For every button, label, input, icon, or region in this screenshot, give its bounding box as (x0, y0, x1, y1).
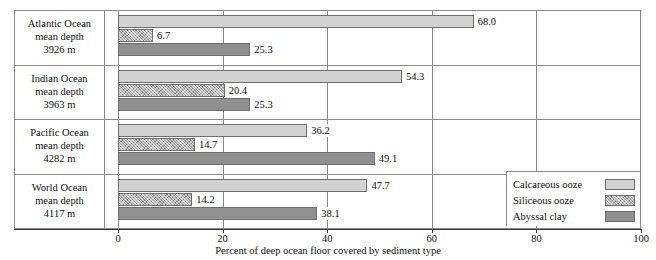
legend-swatch-siliceous-ooze (605, 195, 635, 206)
bar-atlantic-ocean-abyssal-clay (118, 43, 250, 56)
group-label-line: mean depth (15, 85, 104, 98)
bar-value-atlantic-ocean-siliceous-ooze: 6.7 (155, 29, 170, 42)
group-label-line: Pacific Ocean (15, 126, 104, 139)
group-label-line: 3926 m (15, 43, 104, 56)
group-label-pacific-ocean: Pacific Oceanmean depth4282 m (15, 126, 104, 165)
bar-value-pacific-ocean-siliceous-ooze: 14.7 (197, 138, 217, 151)
bar-indian-ocean-abyssal-clay (118, 98, 250, 111)
legend-item-calcareous-ooze[interactable]: Calcareous ooze (513, 177, 637, 192)
bar-pacific-ocean-calcareous-ooze (118, 124, 307, 137)
bar-indian-ocean-siliceous-ooze (118, 84, 225, 97)
legend: Calcareous oozeSiliceous oozeAbyssal cla… (506, 171, 640, 226)
group-label-world-ocean: World Oceanmean depth4117 m (15, 181, 104, 220)
bar-value-pacific-ocean-calcareous-ooze: 36.2 (309, 124, 329, 137)
legend-swatch-calcareous-ooze (605, 179, 635, 190)
bar-value-atlantic-ocean-abyssal-clay: 25.3 (252, 43, 272, 56)
legend-label: Calcareous ooze (513, 178, 582, 191)
group-label-line: mean depth (15, 30, 104, 43)
group-label-line: Atlantic Ocean (15, 17, 104, 30)
group-label-line: 4282 m (15, 152, 104, 165)
group-label-line: 4117 m (15, 207, 104, 220)
bar-value-atlantic-ocean-calcareous-ooze: 68.0 (476, 15, 496, 28)
bar-value-pacific-ocean-abyssal-clay: 49.1 (377, 152, 397, 165)
group-label-indian-ocean: Indian Oceanmean depth3963 m (15, 72, 104, 111)
group-label-line: mean depth (15, 194, 104, 207)
bar-atlantic-ocean-calcareous-ooze (118, 15, 474, 28)
bar-world-ocean-abyssal-clay (118, 207, 317, 220)
row-separator (14, 65, 641, 66)
row-separator (14, 119, 641, 120)
sediment-bar-chart: Atlantic Oceanmean depth3926 mIndian Oce… (0, 0, 656, 260)
bar-indian-ocean-calcareous-ooze (118, 70, 402, 83)
bar-value-world-ocean-abyssal-clay: 38.1 (319, 207, 339, 220)
group-label-line: mean depth (15, 139, 104, 152)
bar-pacific-ocean-abyssal-clay (118, 152, 375, 165)
bar-value-indian-ocean-calcareous-ooze: 54.3 (404, 70, 424, 83)
bar-pacific-ocean-siliceous-ooze (118, 138, 195, 151)
bar-value-indian-ocean-abyssal-clay: 25.3 (252, 98, 272, 111)
bar-world-ocean-siliceous-ooze (118, 193, 192, 206)
bar-world-ocean-calcareous-ooze (118, 179, 367, 192)
legend-swatch-abyssal-clay (605, 211, 635, 222)
legend-label: Siliceous ooze (513, 194, 574, 207)
legend-item-abyssal-clay[interactable]: Abyssal clay (513, 209, 637, 224)
legend-label: Abyssal clay (513, 210, 567, 223)
bar-value-world-ocean-calcareous-ooze: 47.7 (369, 179, 389, 192)
bar-value-world-ocean-siliceous-ooze: 14.2 (194, 193, 214, 206)
group-label-line: Indian Ocean (15, 72, 104, 85)
x-axis-title: Percent of deep ocean floor covered by s… (0, 244, 656, 257)
group-label-line: World Ocean (15, 181, 104, 194)
group-label-atlantic-ocean: Atlantic Oceanmean depth3926 m (15, 17, 104, 56)
group-label-line: 3963 m (15, 98, 104, 111)
bar-value-indian-ocean-siliceous-ooze: 20.4 (227, 84, 247, 97)
bar-atlantic-ocean-siliceous-ooze (118, 29, 153, 42)
legend-item-siliceous-ooze[interactable]: Siliceous ooze (513, 193, 637, 208)
